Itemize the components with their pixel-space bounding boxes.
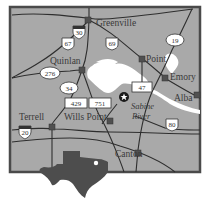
town-marker-greenville xyxy=(85,17,91,23)
svg-text:80: 80 xyxy=(169,121,177,129)
town-label-alba: Alba xyxy=(174,93,193,103)
svg-text:47: 47 xyxy=(139,84,147,92)
svg-text:67: 67 xyxy=(65,40,73,48)
town-marker-quinlan xyxy=(79,67,85,73)
svg-text:429: 429 xyxy=(71,100,82,108)
svg-text:69: 69 xyxy=(109,40,117,48)
svg-text:30: 30 xyxy=(76,29,84,37)
town-marker-point xyxy=(139,56,145,62)
map: Greenville Quinlan Point Emory Alba Terr… xyxy=(0,0,212,199)
town-marker-wills-point xyxy=(107,118,113,124)
river-label-line1: Sabine xyxy=(131,101,154,111)
farm-road-751-sign: 751 xyxy=(89,98,111,108)
star-icon xyxy=(119,92,129,102)
farm-road-47-sign: 47 xyxy=(132,82,152,92)
state-34-shield: 34 xyxy=(60,82,78,94)
town-label-quinlan: Quinlan xyxy=(50,56,81,66)
us-67-shield: 67 xyxy=(62,38,74,50)
us-80-shield: 80 xyxy=(166,119,178,131)
town-label-point: Point xyxy=(146,54,166,64)
town-label-terrell: Terrell xyxy=(19,112,45,122)
town-marker-terrell xyxy=(49,124,55,130)
farm-road-429-sign: 429 xyxy=(65,98,87,108)
town-label-wills-point: Wills Point xyxy=(64,112,107,122)
svg-text:19: 19 xyxy=(172,37,180,45)
svg-text:751: 751 xyxy=(95,100,106,108)
state-276-shield: 276 xyxy=(40,67,60,79)
town-label-emory: Emory xyxy=(170,72,196,82)
svg-text:20: 20 xyxy=(22,129,30,137)
town-marker-alba xyxy=(194,92,200,98)
town-marker-emory xyxy=(162,75,168,81)
river-label-line2: River xyxy=(131,111,151,121)
state-19-shield: 19 xyxy=(166,34,184,46)
location-dot xyxy=(94,161,98,165)
svg-text:276: 276 xyxy=(45,70,56,78)
town-label-greenville: Greenville xyxy=(96,18,136,28)
town-label-canton: Canton xyxy=(115,149,143,159)
svg-text:34: 34 xyxy=(66,85,74,93)
us-69-shield: 69 xyxy=(106,38,118,50)
